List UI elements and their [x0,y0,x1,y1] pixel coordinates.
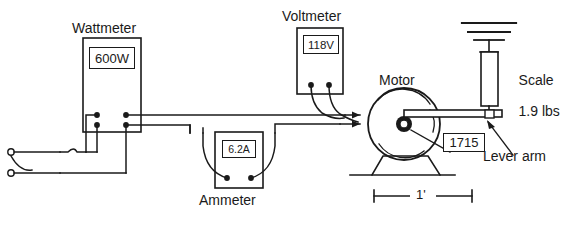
voltmeter-label: Voltmeter [282,9,341,25]
motor-arrowhead-upper [352,112,360,119]
scale-label-line2: 1.9 lbs [519,103,560,119]
wattmeter-label: Wattmeter [72,21,136,37]
scale-label-line1: Scale [519,72,554,88]
circuit-diagram: Wattmeter 600W Voltmeter 118V Ammeter 6.… [0,0,582,226]
motor-speed-callout: 1715 [443,133,485,152]
ammeter-label: Ammeter [199,193,256,209]
lever-arm-label: Lever arm [483,149,546,165]
wattmeter-reading: 600W [89,47,135,69]
scale-body [481,52,498,106]
wire-hop-left [60,149,86,152]
dimension-label: 1' [416,188,426,203]
scale-lever-connector [485,110,494,118]
supply-terminal-top [8,149,14,155]
supply-switch-arc [11,156,32,170]
motor-label: Motor [379,73,415,89]
motor-shaft-inner [400,120,408,128]
voltmeter-reading: 118V [303,35,339,54]
lever-arm-arrowhead [487,120,495,129]
ammeter-reading: 6.2A [222,140,256,158]
scale-label: Scale 1.9 lbs [503,57,560,135]
supply-terminal-bottom [8,170,14,176]
ammeter-branch-right-run [275,124,340,133]
